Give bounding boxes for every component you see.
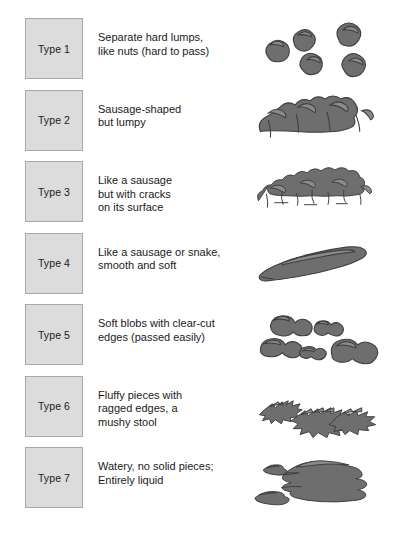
chart-row: Type 7 Watery, no solid pieces; Entirely… <box>0 447 412 519</box>
description-line: Separate hard lumps, <box>98 31 246 45</box>
description-line: Sausage-shaped <box>98 103 246 117</box>
description-2: Sausage-shaped but lumpy <box>98 103 246 130</box>
type-box-1: Type 1 <box>25 18 83 79</box>
type-label: Type 6 <box>38 400 70 412</box>
type-label: Type 4 <box>38 257 70 269</box>
illustration-lumpy-sausage-icon <box>248 90 400 162</box>
chart-row: Type 4 Like a sausage or snake, smooth a… <box>0 233 412 305</box>
illustration-separate-hard-lumps-icon <box>248 18 400 90</box>
description-4: Like a sausage or snake, smooth and soft <box>98 246 246 273</box>
illustration-soft-blobs-icon <box>248 304 400 376</box>
type-box-6: Type 6 <box>25 376 83 437</box>
type-label: Type 2 <box>38 114 70 126</box>
description-line: Watery, no solid pieces; <box>98 460 246 474</box>
illustration-watery-liquid-icon <box>248 447 400 519</box>
chart-row: Type 2 Sausage-shaped but lumpy <box>0 90 412 162</box>
illustration-cracked-sausage-icon <box>248 161 400 233</box>
type-box-3: Type 3 <box>25 161 83 222</box>
description-6: Fluffy pieces with ragged edges, a mushy… <box>98 389 246 430</box>
description-line: but with cracks <box>98 188 246 202</box>
type-box-2: Type 2 <box>25 90 83 151</box>
type-label: Type 7 <box>38 472 70 484</box>
description-7: Watery, no solid pieces; Entirely liquid <box>98 460 246 487</box>
chart-row: Type 3 Like a sausage but with cracks on… <box>0 161 412 233</box>
type-box-5: Type 5 <box>25 304 83 365</box>
illustration-smooth-sausage-icon <box>248 233 400 305</box>
description-line: Entirely liquid <box>98 474 246 488</box>
description-line: but lumpy <box>98 116 246 130</box>
type-box-4: Type 4 <box>25 233 83 294</box>
description-line: edges (passed easily) <box>98 331 246 345</box>
description-5: Soft blobs with clear-cut edges (passed … <box>98 317 246 344</box>
description-line: Like a sausage or snake, <box>98 246 246 260</box>
description-line: smooth and soft <box>98 259 246 273</box>
chart-row: Type 1 Separate hard lumps, like nuts (h… <box>0 18 412 90</box>
description-1: Separate hard lumps, like nuts (hard to … <box>98 31 246 58</box>
description-line: mushy stool <box>98 416 246 430</box>
description-line: Soft blobs with clear-cut <box>98 317 246 331</box>
type-label: Type 5 <box>38 329 70 341</box>
chart-row: Type 6 Fluffy pieces with ragged edges, … <box>0 376 412 448</box>
type-box-7: Type 7 <box>25 447 83 508</box>
description-line: Fluffy pieces with <box>98 389 246 403</box>
type-label: Type 1 <box>38 43 70 55</box>
description-line: like nuts (hard to pass) <box>98 45 246 59</box>
type-label: Type 3 <box>38 186 70 198</box>
description-line: on its surface <box>98 201 246 215</box>
chart-row: Type 5 Soft blobs with clear-cut edges (… <box>0 304 412 376</box>
illustration-fluffy-ragged-pieces-icon <box>248 376 400 448</box>
description-3: Like a sausage but with cracks on its su… <box>98 174 246 215</box>
description-line: ragged edges, a <box>98 402 246 416</box>
description-line: Like a sausage <box>98 174 246 188</box>
bristol-stool-chart: Type 1 Separate hard lumps, like nuts (h… <box>0 0 412 534</box>
